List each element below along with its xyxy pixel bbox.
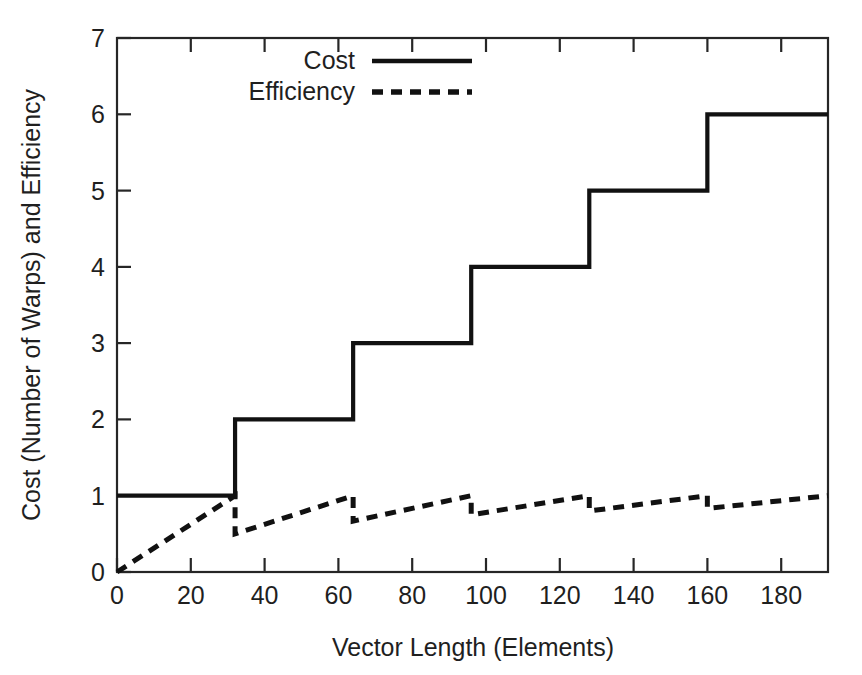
x-tick-label-60: 60: [324, 581, 352, 609]
y-tick-label-7: 7: [91, 24, 105, 52]
x-tick-label-140: 140: [613, 581, 655, 609]
series-cost-line: [117, 114, 828, 495]
chart-figure: 0 1 2 3 4 5 6 7: [0, 0, 862, 675]
x-tick-label-0: 0: [110, 581, 124, 609]
x-tick-label-80: 80: [398, 581, 426, 609]
x-tick-label-180: 180: [760, 581, 802, 609]
y-tick-label-0: 0: [91, 558, 105, 586]
y-axis-tick-labels: 0 1 2 3 4 5 6 7: [91, 24, 105, 586]
legend-label-cost: Cost: [304, 46, 355, 74]
x-tick-label-100: 100: [465, 581, 507, 609]
legend-label-efficiency: Efficiency: [248, 77, 355, 105]
x-axis-tick-labels: 0 20 40 60 80 100 120 140 160 180: [110, 581, 802, 609]
x-axis-ticks: [117, 38, 781, 572]
chart-legend: Cost Efficiency: [248, 46, 472, 105]
chart-canvas: 0 1 2 3 4 5 6 7: [0, 0, 862, 675]
y-tick-label-6: 6: [91, 100, 105, 128]
x-tick-label-20: 20: [177, 581, 205, 609]
y-axis-ticks: [117, 38, 131, 572]
y-tick-label-3: 3: [91, 329, 105, 357]
y-axis-title: Cost (Number of Warps) and Efficiency: [17, 88, 45, 521]
y-tick-label-1: 1: [91, 482, 105, 510]
x-tick-label-120: 120: [539, 581, 581, 609]
x-axis-title: Vector Length (Elements): [332, 633, 614, 661]
series-efficiency-line: [117, 496, 828, 572]
y-tick-label-2: 2: [91, 405, 105, 433]
y-tick-label-4: 4: [91, 253, 105, 281]
x-tick-label-160: 160: [687, 581, 729, 609]
y-tick-label-5: 5: [91, 177, 105, 205]
x-tick-label-40: 40: [251, 581, 279, 609]
